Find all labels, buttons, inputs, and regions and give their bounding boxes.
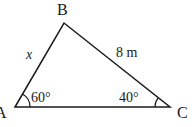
side-label-ab: x <box>25 47 33 62</box>
angle-arc-c <box>155 98 158 107</box>
side-label-bc: 8 m <box>116 45 138 60</box>
vertex-label-a: A <box>0 104 7 121</box>
angle-label-a: 60° <box>31 90 51 105</box>
angle-label-c: 40° <box>119 90 139 105</box>
vertex-label-c: C <box>177 104 188 121</box>
vertex-label-b: B <box>57 1 68 18</box>
triangle-diagram: A B C x 8 m 60° 40° <box>0 0 192 127</box>
angle-arc-a <box>23 94 31 107</box>
